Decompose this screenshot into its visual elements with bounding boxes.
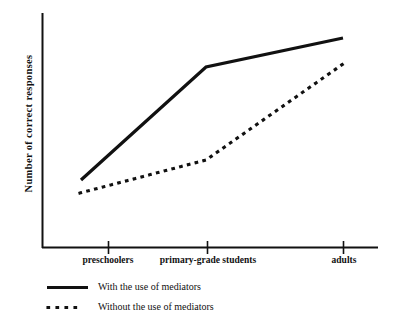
legend-label-with-mediators: With the use of mediators bbox=[98, 281, 201, 292]
x-tick-label-primary-grade-students: primary-grade students bbox=[160, 255, 256, 265]
series-line-without-mediators bbox=[80, 64, 343, 193]
x-tick-label-preschoolers: preschoolers bbox=[82, 255, 133, 265]
x-tick-label-adults: adults bbox=[332, 255, 357, 265]
series-line-with-mediators bbox=[81, 38, 343, 180]
line-chart-canvas bbox=[0, 0, 393, 328]
legend-label-without-mediators: Without the use of mediators bbox=[98, 301, 214, 312]
y-axis-title: Number of correct responses bbox=[23, 34, 34, 214]
chart-figure: Number of correct responses preschoolers… bbox=[0, 0, 393, 328]
